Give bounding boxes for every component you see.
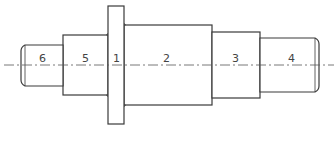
shaft-drawing: 6 5 1 2 3 4: [0, 0, 336, 142]
section-label-5: 5: [82, 52, 89, 65]
section-label-3: 3: [232, 52, 239, 65]
section-label-4: 4: [288, 52, 295, 65]
section-label-1: 1: [113, 52, 120, 65]
section-label-2: 2: [163, 52, 170, 65]
section-label-6: 6: [39, 52, 46, 65]
